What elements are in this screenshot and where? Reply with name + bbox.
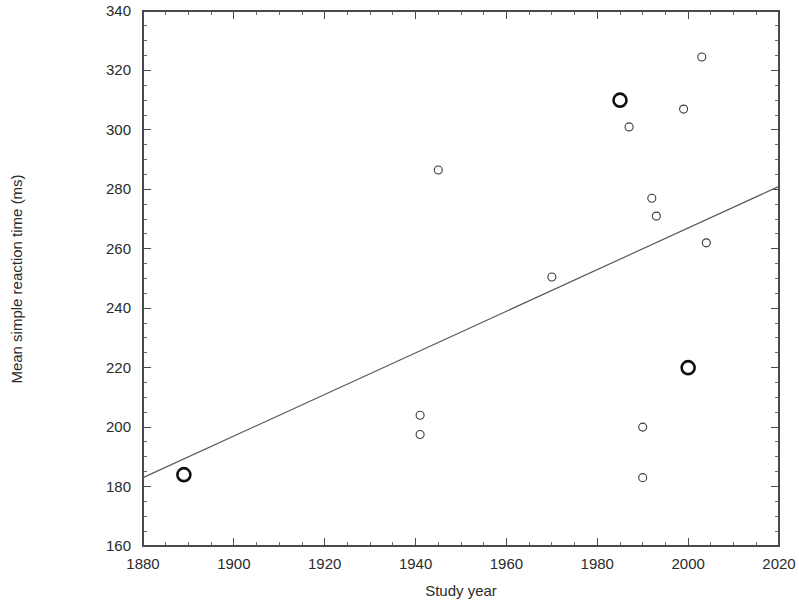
- x-tick-label: 1920: [308, 555, 341, 572]
- x-axis-title: Study year: [425, 582, 497, 599]
- x-tick-label: 1880: [126, 555, 159, 572]
- y-tick-label: 240: [106, 299, 131, 316]
- y-tick-label: 180: [106, 478, 131, 495]
- y-tick-label: 160: [106, 537, 131, 554]
- x-tick-label: 1940: [399, 555, 432, 572]
- scatter-plot-figure: 1880190019201940196019802000202016018020…: [0, 0, 799, 607]
- x-tick-label: 2020: [762, 555, 795, 572]
- x-tick-label: 2000: [671, 555, 704, 572]
- plot-canvas: 1880190019201940196019802000202016018020…: [0, 0, 799, 607]
- y-tick-label: 300: [106, 121, 131, 138]
- y-tick-label: 260: [106, 240, 131, 257]
- y-tick-label: 340: [106, 2, 131, 19]
- y-axis-title: Mean simple reaction time (ms): [8, 174, 25, 383]
- y-tick-label: 320: [106, 61, 131, 78]
- y-tick-label: 280: [106, 180, 131, 197]
- y-tick-label: 200: [106, 418, 131, 435]
- x-tick-label: 1980: [581, 555, 614, 572]
- x-tick-label: 1960: [490, 555, 523, 572]
- x-tick-label: 1900: [217, 555, 250, 572]
- y-tick-label: 220: [106, 359, 131, 376]
